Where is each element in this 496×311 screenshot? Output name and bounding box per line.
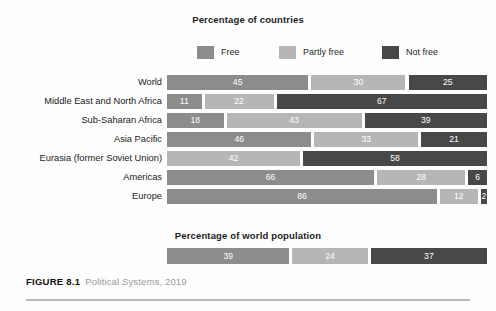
row-label-asia-pacific: Asia Pacific bbox=[114, 131, 162, 147]
chart-row: Sub-Saharan Africa184339 bbox=[0, 112, 496, 131]
chart-row: Asia Pacific463321 bbox=[0, 131, 496, 150]
bar-segment-value: 86 bbox=[297, 192, 307, 201]
bottom-divider bbox=[26, 299, 470, 301]
chart-title-world-population: Percentage of world population bbox=[0, 230, 496, 241]
bar-segment-partly-free: 43 bbox=[227, 113, 362, 128]
bar-segment-not-free: 25 bbox=[409, 75, 488, 90]
bar-segment-value: 30 bbox=[354, 78, 364, 87]
bar-segment-free: 18 bbox=[167, 113, 224, 128]
row-label-europe: Europe bbox=[132, 188, 162, 204]
bar-segment-partly-free: 28 bbox=[377, 170, 465, 185]
bar-segment-value: 39 bbox=[421, 116, 431, 125]
bar-segment-not-free: 39 bbox=[365, 113, 487, 128]
bar-segment-not-free: 21 bbox=[421, 132, 487, 147]
bar-segment-free: 66 bbox=[167, 170, 374, 185]
bar-segment-value: 43 bbox=[289, 116, 299, 125]
bar-segment-value: 18 bbox=[190, 116, 200, 125]
bar-segment-value: 28 bbox=[416, 173, 426, 182]
bar-segment-not-free: 58 bbox=[303, 151, 487, 166]
bar-segment-value: 2 bbox=[481, 192, 486, 201]
chart-row: World453025 bbox=[0, 74, 496, 93]
row-label-eurasia-former-soviet-union: Eurasia (former Soviet Union) bbox=[40, 150, 162, 166]
row-bar: 184339 bbox=[167, 113, 487, 128]
bar-segment-partly-free: 33 bbox=[314, 132, 418, 147]
bar-segment-value: 25 bbox=[443, 78, 453, 87]
bar-segment-partly-free: 12 bbox=[440, 189, 478, 204]
bar-segment-value: 22 bbox=[234, 97, 244, 106]
bar-segment-partly-free: 22 bbox=[205, 94, 274, 109]
bar-segment-value: 12 bbox=[454, 192, 464, 201]
legend-swatch-partly-free bbox=[279, 46, 296, 59]
legend-label-free: Free bbox=[221, 47, 240, 57]
row-bar: 463321 bbox=[167, 132, 487, 147]
bar-segment-value: 11 bbox=[180, 97, 189, 106]
bar-segment-value: 6 bbox=[475, 173, 480, 182]
row-bar: 112267 bbox=[167, 94, 487, 109]
bar-segment-value: 58 bbox=[390, 154, 400, 163]
chart-row: Europe86122 bbox=[0, 188, 496, 207]
bar-segment-not-free: 6 bbox=[468, 170, 487, 185]
row-bar: 86122 bbox=[167, 189, 487, 204]
bar-segment-value: 21 bbox=[449, 135, 459, 144]
legend-item-partly-free: Partly free bbox=[279, 44, 344, 60]
bar-segment-not-free: 2 bbox=[481, 189, 487, 204]
row-bar: 66286 bbox=[167, 170, 487, 185]
bar-segment-not-free: 37 bbox=[371, 248, 487, 264]
chart-legend: Free Partly free Not free bbox=[167, 44, 487, 60]
row-label-middle-east-and-north-africa: Middle East and North Africa bbox=[44, 93, 162, 109]
bar-segment-value: 37 bbox=[424, 252, 434, 261]
row-label-world: World bbox=[138, 74, 162, 90]
bar-segment-value: 39 bbox=[223, 252, 233, 261]
world-population-bar: 392437 bbox=[167, 248, 487, 264]
legend-label-not-free: Not free bbox=[406, 47, 438, 57]
bar-segment-partly-free: 42 bbox=[167, 151, 300, 166]
bar-segment-free: 86 bbox=[167, 189, 437, 204]
bar-segment-value: 42 bbox=[229, 154, 239, 163]
bar-segment-free: 11 bbox=[167, 94, 202, 109]
row-label-americas: Americas bbox=[123, 169, 162, 185]
bar-segment-value: 67 bbox=[377, 97, 387, 106]
bar-segment-not-free: 67 bbox=[277, 94, 487, 109]
bar-segment-free: 39 bbox=[167, 248, 289, 264]
row-bar: 4258 bbox=[167, 151, 487, 166]
legend-swatch-free bbox=[197, 46, 214, 59]
row-label-sub-saharan-africa: Sub-Saharan Africa bbox=[81, 112, 162, 128]
chart-row: Eurasia (former Soviet Union)4258 bbox=[0, 150, 496, 169]
row-bar: 453025 bbox=[167, 75, 487, 90]
bar-segment-value: 46 bbox=[234, 135, 244, 144]
figure-container: Percentage of countries Free Partly free… bbox=[0, 0, 496, 311]
bar-segment-free: 46 bbox=[167, 132, 311, 147]
bar-segment-partly-free: 24 bbox=[292, 248, 367, 264]
chart-row: Middle East and North Africa112267 bbox=[0, 93, 496, 112]
bar-segment-partly-free: 30 bbox=[311, 75, 405, 90]
figure-caption-text: Political Systems, 2019 bbox=[85, 276, 186, 287]
bar-segment-value: 66 bbox=[266, 173, 276, 182]
chart-row: Americas66286 bbox=[0, 169, 496, 188]
bar-segment-value: 24 bbox=[325, 252, 335, 261]
figure-number: FIGURE 8.1 bbox=[26, 276, 80, 287]
bar-segment-value: 33 bbox=[361, 135, 371, 144]
legend-label-partly-free: Partly free bbox=[303, 47, 344, 57]
figure-caption: FIGURE 8.1Political Systems, 2019 bbox=[26, 276, 187, 287]
legend-swatch-not-free bbox=[382, 46, 399, 59]
legend-item-not-free: Not free bbox=[382, 44, 438, 60]
legend-item-free: Free bbox=[197, 44, 240, 60]
bar-segment-free: 45 bbox=[167, 75, 308, 90]
bar-segment-value: 45 bbox=[233, 78, 243, 87]
chart-rows: World453025Middle East and North Africa1… bbox=[0, 74, 496, 207]
chart-title-countries: Percentage of countries bbox=[0, 14, 496, 25]
